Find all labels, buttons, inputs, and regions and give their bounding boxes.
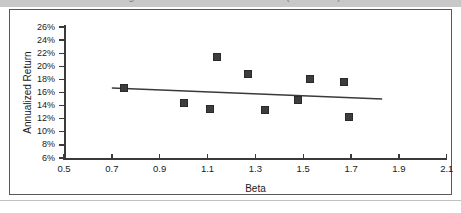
top-gray-band: Figure 4: Annualized Return vs. Beta (20… <box>0 0 461 7</box>
chart-frame <box>9 9 452 195</box>
clipped-figure-title: Figure 4: Annualized Return vs. Beta (20… <box>0 0 461 2</box>
bottom-divider-rule <box>0 200 461 201</box>
